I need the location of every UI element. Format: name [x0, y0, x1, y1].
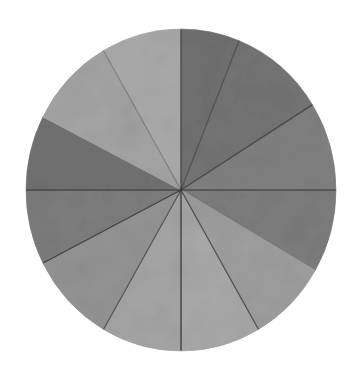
tonal-wheel-figure	[0, 0, 360, 377]
tonal-wheel	[0, 0, 360, 377]
